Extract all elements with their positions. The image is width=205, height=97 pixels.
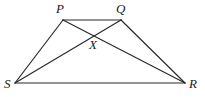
diagonal-PR bbox=[63, 20, 185, 83]
edges-group bbox=[15, 20, 185, 83]
vertex-label-r: R bbox=[188, 76, 197, 91]
labels-group: P Q X S R bbox=[4, 1, 197, 91]
trapezium-diagram: P Q X S R bbox=[0, 0, 205, 97]
side-QR bbox=[121, 20, 185, 83]
diagonal-QS bbox=[15, 20, 121, 83]
vertex-label-p: P bbox=[55, 1, 64, 16]
side-SP bbox=[15, 20, 63, 83]
intersection-label-x: X bbox=[88, 37, 98, 52]
vertex-label-q: Q bbox=[116, 1, 126, 16]
vertex-label-s: S bbox=[4, 76, 11, 91]
